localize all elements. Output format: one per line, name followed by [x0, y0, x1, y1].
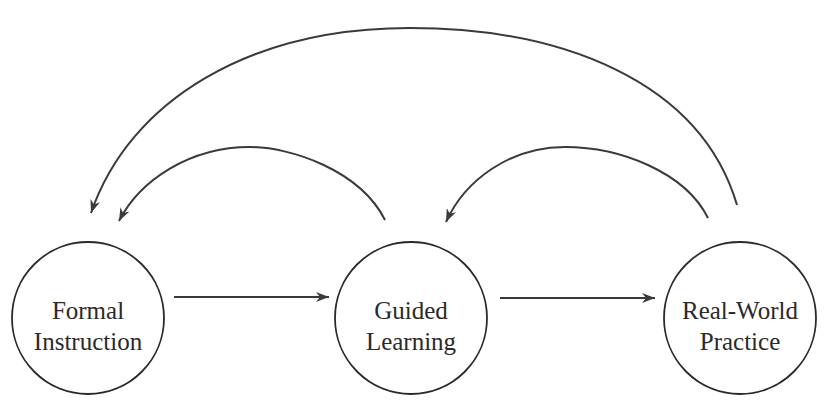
- node-guided-learning: Guided Learning: [335, 242, 487, 394]
- node-label-line2: Instruction: [34, 328, 143, 355]
- node-formal-instruction: Formal Instruction: [12, 242, 164, 394]
- node-label-line2: Practice: [700, 328, 781, 355]
- node-label-line1: Formal: [52, 297, 124, 324]
- edge-practice-to-formal: [91, 28, 737, 213]
- learning-cycle-diagram: Formal Instruction Guided Learning Real-…: [0, 0, 830, 414]
- edge-guided-to-formal: [119, 147, 385, 221]
- node-label-line1: Real-World: [682, 297, 799, 324]
- node-label-line2: Learning: [366, 328, 457, 355]
- edge-practice-to-guided: [446, 147, 708, 222]
- node-real-world-practice: Real-World Practice: [664, 242, 816, 394]
- node-label-line1: Guided: [374, 297, 448, 324]
